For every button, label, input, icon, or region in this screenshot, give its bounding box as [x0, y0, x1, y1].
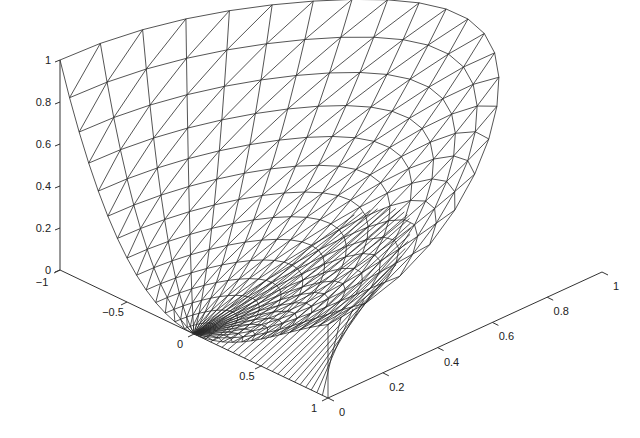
- mesh-edge: [108, 179, 127, 216]
- mesh-edge: [134, 168, 158, 205]
- mesh-edge: [332, 107, 371, 136]
- mesh-edge: [272, 1, 313, 5]
- mesh-edge: [371, 107, 392, 111]
- mesh-edge: [401, 157, 408, 169]
- mesh-edge: [98, 191, 108, 216]
- mesh-edge: [341, 0, 352, 37]
- mesh-edge: [156, 303, 166, 314]
- mesh-edge: [193, 315, 194, 325]
- x-axis-tick: [121, 302, 127, 305]
- mesh-edge: [189, 186, 190, 211]
- mesh-edge: [188, 86, 225, 128]
- mesh-edge: [495, 53, 499, 77]
- mesh-edge: [233, 200, 239, 224]
- mesh-edge: [205, 298, 211, 312]
- mesh-edge: [187, 303, 193, 317]
- mesh-edge: [418, 223, 437, 236]
- mesh-edge: [140, 195, 160, 228]
- x-axis-tick: [322, 398, 328, 401]
- mesh-edge: [273, 193, 284, 218]
- mesh-edge: [435, 209, 437, 224]
- mesh-edge: [288, 75, 297, 109]
- mesh-edge: [214, 173, 244, 205]
- mesh-edge: [455, 174, 475, 192]
- y-tick-label: 0.2: [389, 381, 404, 393]
- mesh-edge: [165, 186, 189, 219]
- mesh-edge: [190, 228, 212, 234]
- x-tick-label: −0.5: [102, 306, 124, 318]
- mesh-edge: [305, 166, 339, 192]
- mesh-edge: [156, 284, 161, 303]
- mesh-edge: [419, 3, 446, 9]
- mesh-edge: [323, 166, 339, 193]
- mesh-edge: [167, 298, 174, 310]
- mesh-edge: [390, 118, 410, 147]
- mesh-edge: [143, 19, 186, 30]
- mesh-edge: [161, 186, 189, 195]
- mesh-edge: [187, 86, 224, 94]
- mesh-edge: [314, 292, 324, 293]
- mesh-edge: [137, 275, 147, 290]
- mesh-edge: [290, 217, 306, 240]
- mesh-edge: [190, 315, 193, 326]
- mesh-edge: [146, 290, 156, 303]
- mesh-edge: [98, 150, 120, 191]
- mesh-edge: [183, 306, 187, 317]
- mesh-edge: [291, 217, 307, 218]
- mesh-edge: [250, 239, 277, 260]
- mesh-edge: [351, 183, 381, 200]
- z-tick-label: 1: [45, 54, 51, 66]
- mesh-edge: [79, 118, 114, 132]
- mesh-edge: [428, 9, 446, 45]
- mesh-edge: [422, 129, 430, 143]
- surface-plot-figure: 00.20.40.60.81−1−0.500.5100.20.40.60.81: [0, 0, 640, 438]
- mesh-edge: [392, 79, 410, 111]
- mesh-edge: [447, 181, 455, 191]
- mesh-edge: [401, 129, 422, 157]
- y-axis-tick: [328, 398, 334, 401]
- mesh-edge: [409, 118, 422, 128]
- mesh-edge: [279, 109, 288, 140]
- mesh-edge: [320, 196, 338, 220]
- mesh-edge: [168, 234, 190, 241]
- mesh-edge: [410, 183, 411, 200]
- mesh-edge: [374, 141, 390, 147]
- mesh-edge: [355, 138, 374, 142]
- z-tick-label: 0.2: [36, 222, 51, 234]
- mesh-edge: [165, 212, 190, 220]
- mesh-edge: [390, 129, 422, 148]
- mesh-edge: [374, 255, 380, 261]
- mesh-edge: [392, 87, 429, 111]
- mesh-edge: [60, 60, 70, 98]
- mesh-edge: [387, 45, 428, 74]
- mesh-edge: [387, 74, 410, 79]
- mesh-edge: [262, 217, 291, 240]
- mesh-edge: [435, 192, 455, 209]
- mesh-edge: [322, 317, 341, 395]
- mesh-edge: [455, 132, 475, 134]
- mesh-edge: [146, 69, 150, 105]
- mesh-edge: [165, 298, 167, 314]
- mesh-edge: [262, 239, 277, 240]
- mesh-edge: [370, 175, 380, 183]
- mesh-edge: [134, 195, 161, 205]
- mesh-edge: [296, 40, 305, 76]
- y-axis-tick: [383, 373, 389, 376]
- mesh-edge: [192, 303, 193, 315]
- mesh-edge: [284, 192, 304, 193]
- mesh-edge: [146, 268, 154, 290]
- mesh-edge: [296, 73, 329, 76]
- mesh-edge: [181, 317, 187, 319]
- mesh-edge: [161, 195, 165, 219]
- mesh-edge: [60, 43, 100, 60]
- y-axis-tick: [492, 322, 498, 325]
- y-axis-tick: [547, 297, 553, 300]
- mesh-edge: [290, 240, 302, 242]
- mesh-edge: [174, 293, 179, 309]
- z-axis-tick: [55, 102, 60, 104]
- mesh-edge: [263, 239, 277, 260]
- mesh-edge: [239, 212, 405, 355]
- x-tick-label: 0: [177, 338, 183, 350]
- mesh-edge: [320, 220, 331, 224]
- mesh-edge: [332, 106, 346, 137]
